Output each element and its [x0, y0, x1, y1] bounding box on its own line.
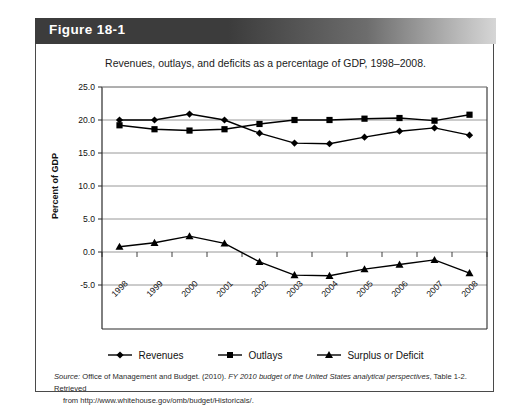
data-point-square — [291, 117, 297, 123]
data-point-square — [361, 116, 367, 122]
y-tick-label: 0.0 — [83, 247, 95, 257]
y-tick-label: 10.0 — [78, 181, 95, 191]
legend-item-outlays: Outlays — [217, 349, 282, 361]
data-point-square — [186, 127, 192, 133]
data-point-square — [326, 117, 332, 123]
data-point-square — [431, 118, 437, 124]
y-tick-label: 5.0 — [83, 214, 95, 224]
source-url-line: from http://www.whitehouse.gov/omb/budge… — [63, 395, 254, 407]
source-text-before: Office of Management and Budget. (2010). — [80, 372, 228, 381]
legend-item-revenues: Revenues — [107, 349, 183, 361]
line-chart: 25.020.015.010.05.00.0-5.0Percent of GDP… — [36, 77, 495, 347]
legend-label: Outlays — [248, 350, 282, 361]
chart-plot-area: 25.020.015.010.05.00.0-5.0Percent of GDP… — [36, 77, 495, 347]
y-tick-label: -5.0 — [80, 280, 95, 290]
square-marker-icon — [217, 349, 243, 361]
y-tick-label: 15.0 — [78, 148, 95, 158]
diamond-marker-icon — [107, 349, 133, 361]
data-point-square — [256, 121, 262, 127]
y-axis-title: Percent of GDP — [50, 153, 60, 219]
data-point-square — [151, 126, 157, 132]
source-title: FY 2010 budget of the United States anal… — [228, 372, 429, 381]
figure-container: Figure 18-1 Revenues, outlays, and defic… — [35, 18, 494, 392]
chart-caption: Revenues, outlays, and deficits as a per… — [36, 57, 495, 69]
triangle-marker-icon — [316, 349, 342, 361]
data-point-square — [116, 122, 122, 128]
source-note: Source: Office of Management and Budget.… — [54, 371, 484, 406]
data-point-square — [396, 115, 402, 121]
y-tick-label: 25.0 — [78, 82, 95, 92]
y-tick-label: 20.0 — [78, 115, 95, 125]
figure-header-bar: Figure 18-1 — [35, 18, 496, 44]
data-point-square — [221, 126, 227, 132]
source-prefix: Source: — [54, 372, 80, 381]
data-point-square — [466, 112, 472, 118]
legend-label: Surplus or Deficit — [347, 350, 423, 361]
figure-label: Figure 18-1 — [49, 22, 125, 37]
legend-label: Revenues — [138, 350, 183, 361]
y-axis-tick-labels: 25.020.015.010.05.00.0-5.0 — [78, 82, 95, 290]
legend-item-surplus-or-deficit: Surplus or Deficit — [316, 349, 423, 361]
chart-legend: RevenuesOutlaysSurplus or Deficit — [36, 349, 495, 361]
